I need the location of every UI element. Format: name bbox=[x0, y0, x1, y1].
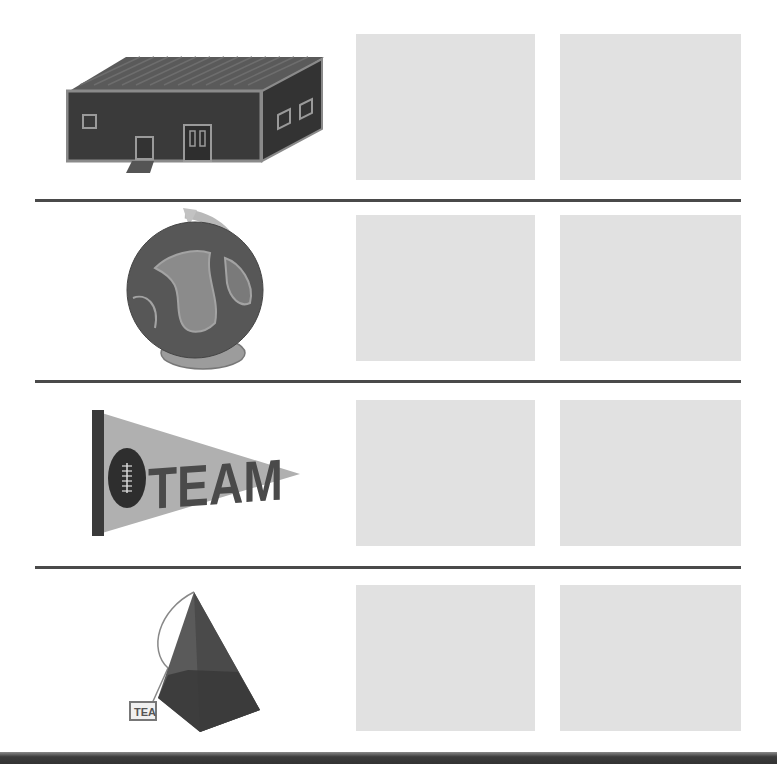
answer-box[interactable] bbox=[560, 585, 741, 731]
answer-box[interactable] bbox=[356, 585, 535, 731]
tea-bag-image: TEA bbox=[128, 590, 268, 740]
worksheet-row-4: TEA bbox=[0, 0, 777, 752]
bottom-band bbox=[0, 752, 777, 764]
tea-tag-text: TEA bbox=[134, 706, 156, 718]
